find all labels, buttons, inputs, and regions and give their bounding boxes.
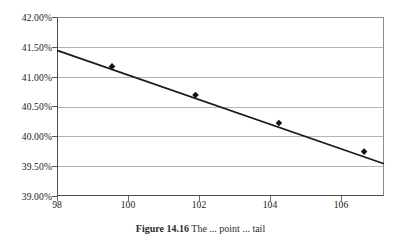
y-axis-tick-label: 41.50% [22, 43, 52, 53]
y-axis-tick-label: 42.00% [22, 13, 52, 23]
figure-caption: Figure 14.16 The ... point ... tail [0, 222, 401, 234]
y-axis-tick-label: 41.00% [22, 73, 52, 83]
figure-number: Figure 14.16 [136, 223, 189, 234]
figure-caption-text: The ... point ... tail [191, 223, 265, 234]
data-point-marker [276, 120, 283, 127]
y-axis-tick-label: 40.00% [22, 132, 52, 142]
y-axis-tick-label: 39.50% [22, 162, 52, 172]
x-axis-tick-label: 102 [184, 200, 214, 210]
x-axis-tick-label: 104 [255, 200, 285, 210]
data-series [57, 17, 384, 196]
data-point-markers [109, 63, 368, 155]
line-chart: 42.00% 41.50% 41.00% 40.50% 40.00% 39.50… [0, 0, 401, 234]
data-point-marker [361, 148, 368, 155]
y-axis-tick-label: 40.50% [22, 102, 52, 112]
x-axis-tick-label: 98 [42, 200, 72, 210]
x-axis-tick-label: 106 [326, 200, 356, 210]
x-axis-tick-label: 100 [113, 200, 143, 210]
chart-screenshot: 42.00% 41.50% 41.00% 40.50% 40.00% 39.50… [0, 0, 401, 234]
trend-line [57, 50, 384, 163]
